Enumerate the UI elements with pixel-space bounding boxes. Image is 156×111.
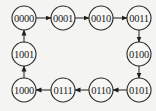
- state-node: 0000: [12, 6, 36, 30]
- state-node: 0111: [51, 78, 75, 102]
- state-label: 0000: [14, 13, 34, 24]
- state-label: 0011: [129, 13, 148, 24]
- state-label: 0101: [129, 85, 149, 96]
- state-label: 1001: [14, 49, 34, 60]
- state-node: 0010: [89, 6, 113, 30]
- state-label: 0110: [91, 85, 110, 96]
- state-node: 0100: [127, 42, 151, 66]
- state-label: 0001: [53, 13, 73, 24]
- state-diagram: 0000 0001 0010 0011 0100 0101 0110 0111 …: [0, 0, 156, 111]
- state-node: 1001: [12, 42, 36, 66]
- state-node: 0101: [127, 78, 151, 102]
- state-label: 0111: [53, 85, 72, 96]
- state-label: 0010: [91, 13, 111, 24]
- state-label: 1000: [14, 85, 34, 96]
- state-node: 1000: [12, 78, 36, 102]
- state-node: 0001: [51, 6, 75, 30]
- diagram-canvas: 0000 0001 0010 0011 0100 0101 0110 0111 …: [0, 0, 156, 111]
- state-node: 0110: [89, 78, 113, 102]
- transition-edges: [24, 18, 139, 90]
- state-node: 0011: [127, 6, 151, 30]
- state-label: 0100: [129, 49, 149, 60]
- state-nodes: 0000 0001 0010 0011 0100 0101 0110 0111 …: [12, 6, 151, 102]
